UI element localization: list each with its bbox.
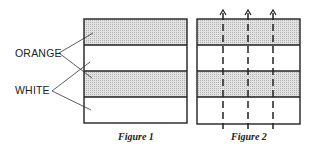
figure-2-stripe-white-2 [197, 97, 300, 123]
figure-1-stripe-orange-2 [84, 71, 187, 97]
figure-1-caption: Figure 1 [118, 131, 154, 142]
figure-1-stripe-white-2 [84, 97, 187, 123]
figure-2 [197, 10, 300, 129]
figure-1-stripe-white-1 [84, 45, 187, 71]
diagram-canvas [0, 0, 312, 152]
figure-2-caption: Figure 2 [231, 131, 267, 142]
label-white: WHITE [15, 84, 50, 96]
label-orange: ORANGE [15, 47, 62, 59]
figure-1-stripe-orange-1 [84, 19, 187, 45]
figure-1 [84, 19, 187, 123]
